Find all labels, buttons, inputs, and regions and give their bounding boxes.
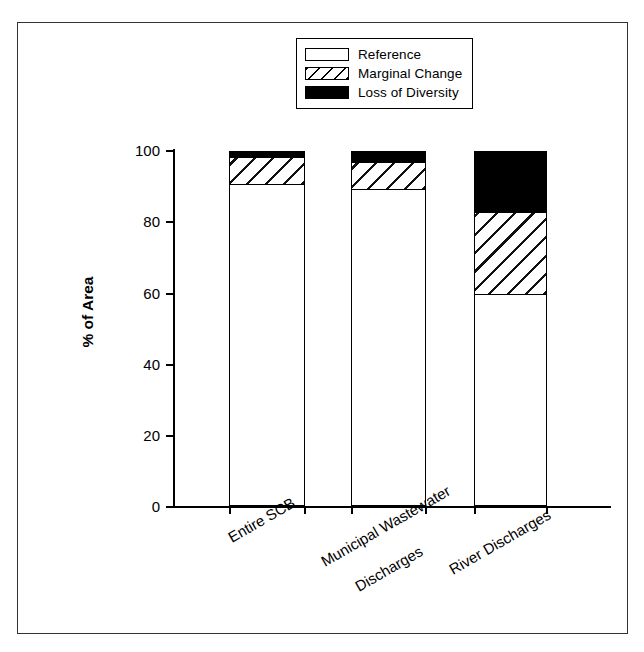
y-tick-label-100: 100 (118, 143, 160, 158)
legend-swatch-marginal-change-icon (305, 67, 349, 80)
bar-municipal-wastewater-discharges[interactable] (351, 151, 426, 506)
bar-segment-marginal-change[interactable] (229, 158, 305, 185)
y-tick-40 (166, 364, 174, 366)
legend-label-marginal-change: Marginal Change (358, 66, 462, 81)
x-tick-bar1-left (229, 506, 231, 514)
y-tick-80 (166, 221, 174, 223)
bar-segment-marginal-change[interactable] (474, 213, 547, 295)
bar-segment-loss-of-diversity[interactable] (229, 151, 305, 158)
legend-label-reference: Reference (358, 47, 421, 62)
y-axis-title: % of Area (79, 237, 97, 387)
bar-segment-reference[interactable] (229, 185, 305, 506)
y-tick-label-40: 40 (118, 357, 160, 372)
y-tick-60 (166, 293, 174, 295)
x-tick-label-river-discharges: River Discharges (446, 506, 554, 579)
y-tick-label-80: 80 (118, 214, 160, 229)
chart-plot-area: Reference Marginal Change Loss of Divers… (18, 23, 629, 635)
y-tick-label-60: 60 (118, 286, 160, 301)
legend-swatch-loss-of-diversity-icon (305, 86, 349, 99)
y-tick-100 (166, 150, 174, 152)
chart-legend: Reference Marginal Change Loss of Divers… (296, 38, 473, 109)
bar-entire-scb[interactable] (229, 151, 305, 506)
legend-swatch-reference-icon (305, 48, 349, 61)
x-tick-bar3-left (474, 506, 476, 514)
x-tick-label-municipal-discharges: Discharges (352, 542, 426, 595)
x-tick-bar2-left (351, 506, 353, 514)
bar-segment-loss-of-diversity[interactable] (351, 151, 426, 163)
bar-river-discharges[interactable] (474, 151, 547, 506)
legend-item-marginal-change: Marginal Change (305, 64, 462, 83)
legend-label-loss-of-diversity: Loss of Diversity (358, 85, 459, 100)
figure-frame: Reference Marginal Change Loss of Divers… (17, 22, 628, 634)
legend-item-reference: Reference (305, 45, 462, 64)
y-axis-line (173, 149, 175, 508)
legend-item-loss-of-diversity: Loss of Diversity (305, 83, 462, 102)
x-tick-label-municipal-wastewater-line2: Discharges (352, 542, 425, 594)
y-tick-20 (166, 435, 174, 437)
bar-segment-loss-of-diversity[interactable] (474, 151, 547, 213)
x-tick-bar1-right (304, 506, 306, 514)
bar-segment-marginal-change[interactable] (351, 163, 426, 190)
bar-segment-reference[interactable] (474, 295, 547, 506)
y-tick-label-0: 0 (118, 499, 160, 514)
y-tick-label-20: 20 (118, 428, 160, 443)
bar-segment-reference[interactable] (351, 190, 426, 506)
